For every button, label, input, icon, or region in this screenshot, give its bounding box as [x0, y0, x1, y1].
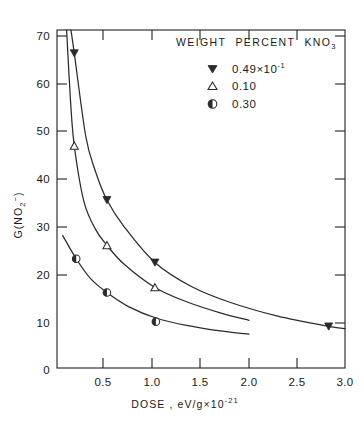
chart-svg: 70 60 50 40 30 20 10 0 0.5 1	[0, 0, 364, 423]
y-axis-tick-labels: 70 60 50 40 30 20 10 0	[36, 30, 50, 376]
legend: 0.49×10-1 0.10 0.30	[208, 61, 285, 110]
y-axis-ticks-right	[335, 36, 345, 323]
chart-figure: 70 60 50 40 30 20 10 0 0.5 1	[0, 0, 364, 423]
y-axis-title-main-a: G(NO	[12, 207, 24, 239]
legend-label-0-main: 0.49×10	[232, 63, 277, 75]
svg-text:G(NO2−): G(NO2−)	[11, 191, 27, 238]
x-label-1-5: 1.5	[191, 376, 208, 388]
data-series-0	[70, 30, 345, 330]
series-curve-1	[67, 30, 249, 320]
data-point-open-up-triangle	[151, 284, 159, 291]
legend-title-word-3: KNO	[304, 36, 331, 48]
x-axis-tick-labels: 0.5 1.0 1.5 2.0 2.5 3.0	[94, 376, 353, 388]
legend-entry-2[interactable]: 0.30	[208, 98, 256, 110]
y-label-40: 40	[36, 173, 50, 185]
y-label-20: 20	[36, 269, 50, 281]
legend-entry-1[interactable]: 0.10	[208, 80, 256, 92]
plot-frame	[57, 30, 345, 368]
x-axis-title: DOSE , eV/g×10-21	[131, 396, 238, 410]
data-point-open-up-triangle	[70, 142, 78, 149]
y-axis-ticks	[57, 36, 67, 275]
y-axis-title-main-b: )	[12, 191, 24, 196]
x-label-0: 0	[43, 364, 50, 376]
x-axis-title-exponent: -21	[225, 396, 239, 405]
legend-title-word-1: WEIGHT	[176, 36, 226, 48]
y-axis-title: G(NO2−)	[11, 191, 27, 238]
legend-label-2: 0.30	[232, 98, 256, 110]
legend-title-subscript: 3	[331, 42, 337, 51]
y-label-50: 50	[36, 125, 50, 137]
y-label-70: 70	[36, 30, 50, 42]
legend-title: WEIGHTPERCENTKNO3	[176, 36, 337, 51]
y-label-60: 60	[36, 78, 50, 90]
data-point-filled-down-triangle	[103, 197, 111, 204]
data-series-1	[67, 30, 249, 320]
y-label-30: 30	[36, 221, 50, 233]
x-axis-title-main: DOSE , eV/g×10	[131, 398, 224, 410]
legend-label-0: 0.49×10-1	[232, 61, 285, 75]
open-up-triangle-icon	[208, 82, 217, 90]
legend-label-0-exponent: -1	[277, 61, 285, 70]
legend-title-word-2: PERCENT	[235, 36, 295, 48]
x-label-1-0: 1.0	[143, 376, 160, 388]
x-label-2-5: 2.5	[288, 376, 305, 388]
filled-down-triangle-icon	[208, 66, 217, 74]
x-label-2-0: 2.0	[240, 376, 257, 388]
x-axis-ticks	[103, 358, 297, 368]
data-series-layer	[63, 30, 345, 334]
legend-entry-0[interactable]: 0.49×10-1	[208, 61, 285, 75]
x-label-3-0: 3.0	[336, 376, 353, 388]
x-label-0-5: 0.5	[94, 376, 111, 388]
series-curve-0	[71, 30, 345, 329]
y-label-10: 10	[36, 317, 50, 329]
legend-label-1: 0.10	[232, 80, 256, 92]
data-point-filled-down-triangle	[70, 50, 78, 57]
